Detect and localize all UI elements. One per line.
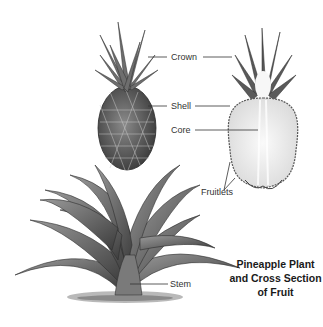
label-stem: Stem [170, 279, 191, 289]
label-shell: Shell [171, 101, 191, 111]
label-crown: Crown [171, 52, 197, 62]
fruit-body [98, 86, 156, 170]
title-line-1: Pineapple Plant [228, 257, 323, 271]
cross-section [228, 28, 297, 189]
title-line-2: and Cross Section [228, 271, 323, 285]
title-line-3: of Fruit [228, 285, 323, 299]
diagram-title: Pineapple Plant and Cross Section of Fru… [228, 257, 323, 299]
label-core: Core [171, 125, 191, 135]
label-fruitlets: Fruitlets [201, 187, 233, 197]
